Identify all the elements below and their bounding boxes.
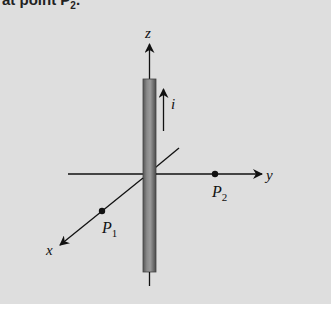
p1-label: P1 [101, 219, 117, 239]
x-axis-label: x [45, 242, 53, 258]
point-p2 [212, 171, 218, 177]
wire-field-diagram: z y x i P2 P1 [0, 0, 331, 309]
current-wire-rod [143, 79, 156, 272]
point-p1 [99, 208, 105, 214]
current-label: i [171, 96, 175, 112]
p2-label: P2 [211, 183, 227, 203]
z-axis-label: z [144, 25, 151, 41]
y-axis-label: y [264, 167, 273, 183]
